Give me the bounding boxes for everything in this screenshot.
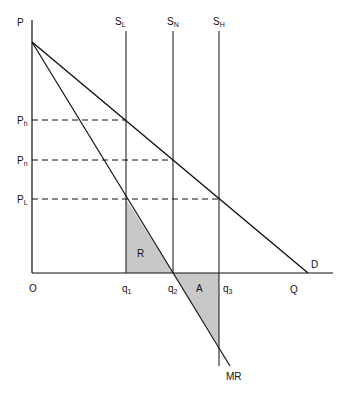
label-pn: Pn: [17, 155, 28, 167]
area-a-label: A: [196, 283, 203, 294]
label-sh: SH: [213, 16, 225, 28]
y-axis-label: P: [17, 17, 24, 28]
label-q2: q2: [168, 283, 178, 295]
label-pl: PL: [17, 194, 28, 206]
x-axis-label: Q: [290, 284, 298, 295]
area-r-label: R: [137, 248, 144, 259]
label-ph: Ph: [17, 115, 28, 127]
label-sl: SL: [115, 16, 126, 28]
demand-curve: [32, 42, 308, 273]
label-sn: SN: [167, 16, 179, 28]
label-q3: q3: [223, 283, 233, 295]
origin-label: O: [29, 283, 37, 294]
demand-label: D: [311, 259, 318, 270]
price-discrimination-diagram: P SL SN SH Ph Pn PL O q1 q2 q3 Q D MR R …: [0, 0, 345, 394]
mr-curve: [32, 42, 230, 366]
mr-label: MR: [226, 371, 242, 382]
label-q1: q1: [122, 283, 132, 295]
